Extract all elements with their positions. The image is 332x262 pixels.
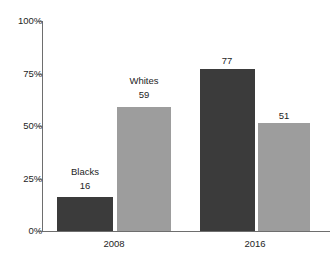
value-label-whites-2016: 51 (254, 110, 314, 121)
bar-whites-2008[interactable] (117, 107, 171, 232)
value-label-blacks-2008: 16 (55, 180, 115, 191)
bar-blacks-2016[interactable] (200, 69, 255, 232)
x-axis-label-2016: 2016 (225, 238, 285, 249)
bar-chart: 100% 75% 50% 25% 0% Blacks 16 Whites 59 … (0, 0, 332, 262)
series-label-blacks: Blacks (55, 166, 115, 177)
value-label-whites-2008: 59 (114, 89, 174, 100)
bar-whites-2016[interactable] (258, 123, 310, 231)
x-axis-label-2008: 2008 (84, 238, 144, 249)
value-label-blacks-2016: 77 (197, 55, 257, 66)
bar-blacks-2008[interactable] (57, 197, 113, 231)
series-label-whites: Whites (114, 75, 174, 86)
plot-area: Blacks 16 Whites 59 77 51 (0, 0, 332, 262)
